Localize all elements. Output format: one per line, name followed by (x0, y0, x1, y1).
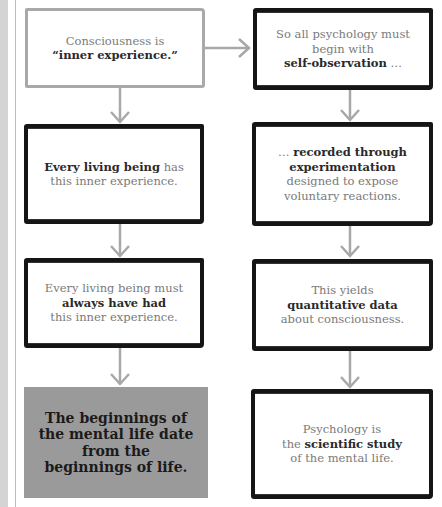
box7-text-post: about consciousness. (281, 312, 405, 326)
box3-text-bold: always have had (62, 296, 166, 310)
box6-text-pre: … (278, 145, 293, 159)
box1-text-post: .” (167, 48, 178, 62)
box6-text-post: designed to expose voluntary reactions. (284, 174, 401, 203)
side-strip (0, 0, 8, 507)
box-recorded-through-experimentation: … recorded through experimentation desig… (252, 122, 433, 226)
box-self-observation: So all psychology must begin with self-o… (253, 8, 433, 90)
box8-text-post: of the mental life. (290, 451, 393, 465)
box-consciousness-inner-experience: Consciousness is “inner experience.” (25, 8, 205, 88)
box-beginnings-of-mental-life: The beginnings of the mental life date f… (24, 387, 208, 498)
box3-text-pre: Every living being must (45, 281, 183, 295)
box3-text-post: this inner experience. (50, 310, 177, 324)
box-every-living-being: Every living being has this inner experi… (24, 124, 204, 224)
box5-text-bold: self-observation (284, 56, 387, 70)
arrow-down-icon (108, 88, 132, 126)
box-always-have-had: Every living being must always have had … (24, 258, 204, 348)
arrow-down-icon (108, 224, 132, 260)
arrow-down-icon (338, 351, 362, 391)
arrow-down-icon (108, 348, 132, 388)
box6-text-bold: recorded through experimentation (289, 145, 407, 174)
box-scientific-study: Psychology is the scientific study of th… (251, 389, 433, 499)
box8-text-bold: scientific study (305, 437, 402, 451)
box5-text-post: … (387, 56, 402, 70)
box-quantitative-data: This yields quantitative data about cons… (252, 259, 433, 351)
arrow-down-icon (338, 90, 362, 124)
box7-text-pre: This yields (311, 283, 373, 297)
box1-text-pre: Consciousness is (66, 34, 165, 48)
box7-text-bold: quantitative data (287, 298, 398, 312)
box1-text-bold: “inner experience (52, 48, 167, 62)
arrow-down-icon (338, 226, 362, 260)
box5-text-pre: So all psychology must begin with (276, 27, 410, 56)
box8-text-pre2: the (282, 437, 305, 451)
arrow-right-icon (205, 36, 253, 60)
box8-text-pre: Psychology is (303, 422, 381, 436)
box2-text-bold: Every living being (44, 160, 160, 174)
side-divider (15, 0, 16, 507)
box4-text: The beginnings of the mental life date f… (39, 410, 194, 476)
